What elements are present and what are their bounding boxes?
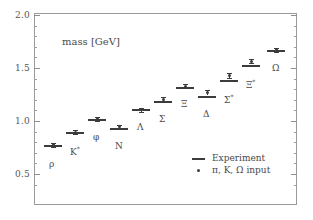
ytick-minor (294, 185, 297, 186)
particle-label-11: Ω (272, 63, 279, 73)
ytick-minor (34, 79, 37, 80)
ytick-minor (34, 185, 37, 186)
ytick-major (291, 15, 297, 16)
ytick-minor (34, 142, 37, 143)
ytick-label-2-0: 2.0 (0, 10, 30, 20)
lattice-point (184, 85, 187, 88)
experiment-line-icon (192, 158, 205, 160)
lattice-point (74, 131, 77, 134)
particle-label-3: φ (93, 132, 99, 142)
particle-label-8: Δ (203, 109, 210, 119)
error-bar-cap (95, 121, 100, 122)
error-bar-cap (274, 52, 279, 53)
legend-label-experiment: Experiment (212, 152, 265, 164)
error-bar-cap (227, 78, 232, 79)
ytick-minor (294, 26, 297, 27)
particle-label-4: N (115, 141, 123, 151)
error-bar-cap (73, 134, 78, 135)
ytick-label-1-5: 1.5 (0, 63, 30, 73)
ytick-major (34, 15, 40, 16)
ytick-minor (294, 57, 297, 58)
ytick-minor (294, 36, 297, 37)
error-bar-cap (161, 101, 166, 102)
lattice-point (228, 74, 231, 77)
ytick-major (34, 174, 40, 175)
ytick-minor (294, 100, 297, 101)
ytick-minor (34, 100, 37, 101)
particle-label-1: ρ (49, 159, 54, 169)
lattice-point (162, 98, 165, 101)
axis-title: mass [GeV] (62, 36, 120, 47)
experiment-bar (242, 65, 260, 67)
ytick-minor (294, 142, 297, 143)
lattice-point (250, 60, 253, 63)
lattice-dot-icon (197, 169, 200, 172)
particle-label-10: Ξ* (246, 78, 255, 90)
particle-label-6: Σ (159, 114, 165, 124)
error-bar-cap (183, 88, 188, 89)
ytick-minor (34, 132, 37, 133)
lattice-point (206, 91, 209, 94)
ytick-minor (294, 89, 297, 90)
ytick-minor (294, 163, 297, 164)
ytick-minor (34, 36, 37, 37)
ytick-minor (294, 47, 297, 48)
ytick-label-1-0: 1.0 (0, 116, 30, 126)
ytick-minor (294, 79, 297, 80)
experiment-bar (220, 80, 238, 82)
legend-label-lattice: π, K, Ω input (212, 164, 270, 176)
ytick-minor (34, 163, 37, 164)
lattice-point (118, 125, 121, 128)
particle-label-5: Λ (137, 122, 144, 132)
ytick-major (34, 121, 40, 122)
ytick-major (34, 68, 40, 69)
ytick-minor (294, 110, 297, 111)
error-bar-cap (205, 96, 210, 97)
ytick-minor (294, 153, 297, 154)
ytick-major (291, 68, 297, 69)
lattice-point (275, 48, 278, 51)
error-bar-cap (117, 129, 122, 130)
error-bar-cap (51, 147, 56, 148)
ytick-minor (34, 153, 37, 154)
ytick-minor (34, 89, 37, 90)
particle-label-9: Σ* (224, 93, 233, 105)
ytick-label-0-5: 0.5 (0, 169, 30, 179)
particle-label-2: K* (70, 145, 80, 157)
particle-label-7: Ξ (181, 99, 187, 109)
ytick-major (291, 174, 297, 175)
error-bar-cap (249, 63, 254, 64)
ytick-minor (34, 47, 37, 48)
ytick-minor (34, 110, 37, 111)
hadron-spectrum-chart: 2.0 1.5 1.0 0.5 mass [GeV] ρK*φNΛΣΞΔΣ*Ξ*… (0, 0, 313, 220)
error-bar-cap (139, 112, 144, 113)
experiment-bar (198, 96, 216, 98)
ytick-minor (34, 57, 37, 58)
ytick-minor (294, 132, 297, 133)
ytick-major (291, 121, 297, 122)
ytick-minor (34, 26, 37, 27)
